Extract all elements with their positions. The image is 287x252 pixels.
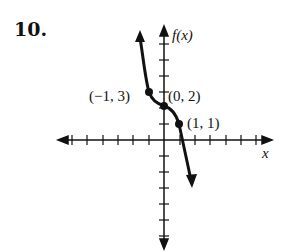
y-axis-up-arrow-icon xyxy=(160,26,168,36)
x-axis-left-arrow-icon xyxy=(58,136,68,144)
x-axis-right-arrow-icon xyxy=(262,136,272,144)
function-graph: f(x) x (−1, 3) (0, 2) (1, 1) xyxy=(0,0,287,252)
point-0-2 xyxy=(160,102,168,110)
x-axis-label: x xyxy=(261,145,269,161)
point-label-0-2: (0, 2) xyxy=(168,88,201,105)
y-axis-label: f(x) xyxy=(172,27,193,44)
point-label-neg1-3: (−1, 3) xyxy=(89,88,130,105)
curve-bottom-arrow-icon xyxy=(186,174,197,188)
point-neg1-3 xyxy=(145,88,153,96)
y-axis-down-arrow-icon xyxy=(160,239,168,249)
point-label-1-1: (1, 1) xyxy=(187,115,220,132)
curve-top-arrow-icon xyxy=(135,30,145,42)
point-1-1 xyxy=(175,120,183,128)
